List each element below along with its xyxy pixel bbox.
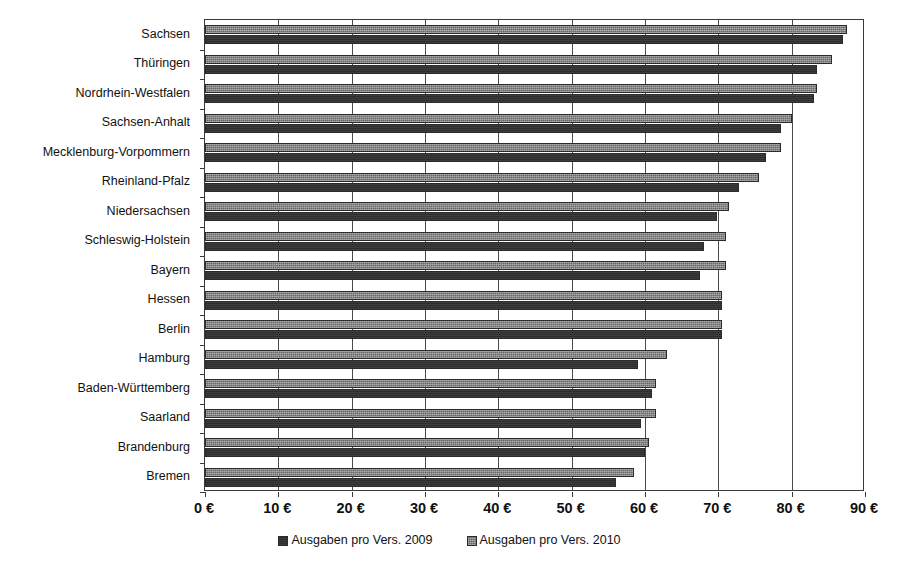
category-label: Bremen (146, 470, 190, 483)
bar-2010 (205, 468, 634, 477)
bar-2009 (205, 478, 616, 487)
x-axis-tick (352, 492, 353, 497)
legend-label: Ausgaben pro Vers. 2009 (291, 534, 432, 547)
category-label: Baden-Württemberg (77, 382, 190, 395)
y-axis-tick (200, 315, 205, 316)
category-label: Schleswig-Holstein (84, 234, 190, 247)
bar-2009 (205, 35, 843, 44)
x-axis-tick (865, 492, 866, 497)
x-axis-tick-label: 90 € (850, 500, 878, 516)
value-axis-labels: 0 €10 €20 €30 €40 €50 €60 €70 €80 €90 € (204, 500, 864, 520)
legend-swatch-icon (278, 536, 288, 546)
x-axis-tick-label: 0 € (194, 500, 214, 516)
y-axis-tick (200, 286, 205, 287)
x-axis-tick-label: 20 € (337, 500, 365, 516)
bar-2010 (205, 114, 792, 123)
bar-2010 (205, 202, 729, 211)
category-label: Hamburg (139, 352, 190, 365)
x-axis-tick-label: 40 € (483, 500, 511, 516)
x-axis-tick (425, 492, 426, 497)
y-axis-tick (200, 227, 205, 228)
bar-2009 (205, 448, 645, 457)
bar-2010 (205, 84, 817, 93)
bar-2009 (205, 389, 652, 398)
y-axis-tick (200, 433, 205, 434)
bar-2009 (205, 65, 817, 74)
x-axis-tick (205, 492, 206, 497)
category-label: Saarland (140, 411, 190, 424)
y-axis-tick (200, 109, 205, 110)
category-label: Thüringen (134, 57, 190, 70)
x-axis-tick (718, 492, 719, 497)
bar-2010 (205, 350, 667, 359)
category-axis: SachsenThüringenNordrhein-WestfalenSachs… (0, 19, 198, 491)
bar-2009 (205, 360, 638, 369)
bar-2010 (205, 261, 726, 270)
category-label: Brandenburg (118, 441, 190, 454)
bar-2010 (205, 438, 649, 447)
category-label: Berlin (158, 323, 190, 336)
category-label: Nordrhein-Westfalen (76, 87, 190, 100)
bar-2009 (205, 242, 704, 251)
bar-2009 (205, 419, 641, 428)
bar-2009 (205, 271, 700, 280)
category-label: Bayern (150, 264, 190, 277)
x-axis-tick-label: 70 € (703, 500, 731, 516)
bar-2010 (205, 25, 847, 34)
bar-2010 (205, 291, 722, 300)
x-axis-tick (645, 492, 646, 497)
bar-2009 (205, 183, 739, 192)
category-label: Niedersachsen (107, 205, 190, 218)
y-axis-tick (200, 168, 205, 169)
x-axis-tick-label: 30 € (410, 500, 438, 516)
y-axis-tick (200, 50, 205, 51)
legend-swatch-icon (467, 536, 477, 546)
x-axis-tick (278, 492, 279, 497)
bar-2010 (205, 409, 656, 418)
category-label: Sachsen (141, 28, 190, 41)
chart-legend: Ausgaben pro Vers. 2009Ausgaben pro Vers… (0, 534, 899, 547)
legend-item: Ausgaben pro Vers. 2010 (467, 534, 621, 547)
category-label: Hessen (148, 293, 190, 306)
y-axis-tick (200, 345, 205, 346)
bar-chart: SachsenThüringenNordrhein-WestfalenSachs… (0, 0, 899, 577)
category-label: Mecklenburg-Vorpommern (43, 146, 190, 159)
bar-2009 (205, 94, 814, 103)
y-axis-tick (200, 463, 205, 464)
bar-2009 (205, 124, 781, 133)
bar-2010 (205, 173, 759, 182)
bar-2009 (205, 301, 722, 310)
y-axis-tick (200, 197, 205, 198)
x-axis-tick (792, 492, 793, 497)
x-axis-tick-label: 50 € (557, 500, 585, 516)
y-axis-tick (200, 374, 205, 375)
legend-item: Ausgaben pro Vers. 2009 (278, 534, 432, 547)
bar-2010 (205, 320, 722, 329)
plot-area (204, 19, 864, 491)
y-axis-tick (200, 138, 205, 139)
bar-2010 (205, 143, 781, 152)
bar-2009 (205, 330, 722, 339)
y-axis-tick (200, 79, 205, 80)
x-axis-tick (498, 492, 499, 497)
bar-2010 (205, 55, 832, 64)
bar-2009 (205, 212, 717, 221)
bar-2010 (205, 232, 726, 241)
x-axis-tick-label: 60 € (630, 500, 658, 516)
bar-2009 (205, 153, 766, 162)
legend-label: Ausgaben pro Vers. 2010 (480, 534, 621, 547)
x-axis-tick-label: 80 € (777, 500, 805, 516)
y-axis-tick (200, 404, 205, 405)
x-axis-tick-label: 10 € (263, 500, 291, 516)
category-label: Sachsen-Anhalt (102, 116, 190, 129)
bar-2010 (205, 379, 656, 388)
x-axis-tick (572, 492, 573, 497)
y-axis-tick (200, 492, 205, 493)
category-label: Rheinland-Pfalz (102, 175, 190, 188)
y-axis-tick (200, 256, 205, 257)
